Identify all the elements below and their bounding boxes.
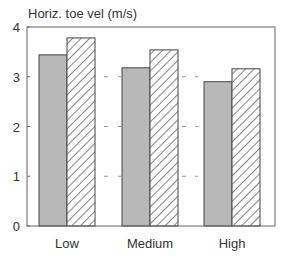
chart-title: Horiz. toe vel (m/s) <box>28 6 137 21</box>
x-category-label: High <box>219 236 246 251</box>
x-category-label: Medium <box>127 236 173 251</box>
bar-low-series-1 <box>39 55 67 226</box>
y-tick-label: 3 <box>13 70 20 85</box>
y-tick-label: 1 <box>13 169 20 184</box>
bars <box>39 38 260 226</box>
y-tick-label: 0 <box>13 219 20 234</box>
bar-low-series-2 <box>67 38 95 226</box>
x-axis: LowMediumHigh <box>55 236 245 251</box>
bar-medium-series-2 <box>150 50 178 226</box>
y-tick-label: 4 <box>13 20 20 35</box>
bar-chart: Horiz. toe vel (m/s) 01234 LowMediumHigh <box>0 0 284 266</box>
x-category-label: Low <box>55 236 79 251</box>
bar-medium-series-1 <box>122 68 150 226</box>
bar-high-series-1 <box>204 82 232 226</box>
bar-high-series-2 <box>232 69 260 226</box>
y-tick-label: 2 <box>13 120 20 135</box>
